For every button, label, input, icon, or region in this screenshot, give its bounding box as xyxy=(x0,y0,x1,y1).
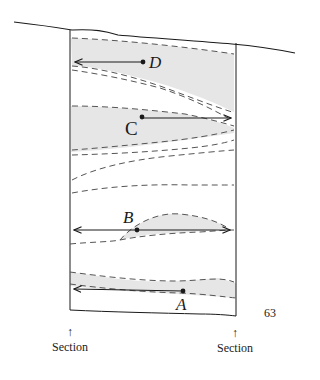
section-label-right: Section xyxy=(210,341,260,356)
point-b-marker xyxy=(135,228,140,233)
point-c-label: C xyxy=(125,119,138,138)
point-d-marker xyxy=(141,60,146,65)
point-b-label: B xyxy=(123,209,133,226)
point-d-label: D xyxy=(149,54,161,71)
section-arrow-left-icon: ↑ xyxy=(45,326,95,338)
point-a-marker xyxy=(181,289,186,294)
point-a-label: A xyxy=(176,296,186,313)
shaded-stratum-c xyxy=(71,106,234,152)
section-label-left: Section xyxy=(45,340,95,355)
shaded-stratum-d xyxy=(71,38,234,112)
section-arrow-right-icon: ↑ xyxy=(210,327,260,339)
page-number: 63 xyxy=(264,306,276,321)
point-c-marker xyxy=(140,115,145,120)
shaded-stratum-b xyxy=(120,214,228,240)
shaded-stratum-a xyxy=(70,272,236,298)
